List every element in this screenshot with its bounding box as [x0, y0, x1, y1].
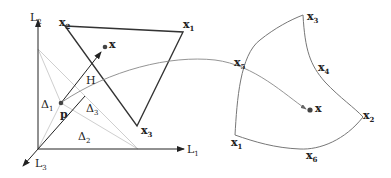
simplex-lines — [38, 49, 138, 149]
label-r-x3: x3 — [307, 10, 319, 25]
mapping-arrow — [62, 59, 306, 109]
label-x1: x1 — [183, 18, 195, 33]
label-delta2: Δ2 — [78, 130, 90, 145]
point-x-right-dot — [307, 107, 312, 112]
label-l2: L2 — [30, 11, 42, 26]
point-p-dot — [59, 101, 64, 106]
label-point-x: x — [109, 38, 116, 51]
label-r-x1: x1 — [231, 136, 243, 151]
label-h: H — [86, 74, 96, 87]
label-x2: x2 — [59, 16, 71, 31]
diagram: L2 L1 L3 x2 x1 x3 x p H Δ1 Δ2 Δ3 x1 x2 x… — [0, 0, 391, 178]
label-r-x6: x6 — [306, 149, 318, 164]
label-r-x4: x4 — [318, 61, 330, 76]
label-r-point-x: x — [315, 102, 322, 115]
label-delta3: Δ3 — [86, 102, 98, 117]
curved-region — [235, 15, 363, 149]
point-x-dot — [103, 45, 108, 50]
axes — [23, 20, 184, 166]
label-r-x5: x5 — [234, 56, 246, 71]
label-l1: L1 — [187, 143, 199, 158]
label-l3: L3 — [35, 157, 47, 172]
label-x3: x3 — [141, 124, 153, 139]
label-r-x2: x2 — [363, 109, 375, 124]
label-point-p: p — [60, 108, 68, 121]
label-delta1: Δ1 — [41, 98, 53, 113]
